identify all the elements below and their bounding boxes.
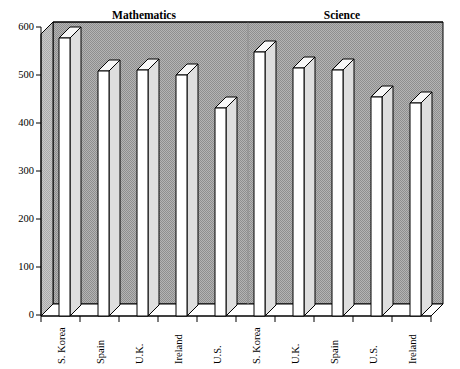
bar-science-s-korea [254,41,276,316]
x-label-science-uk: U.K. [290,344,301,364]
bar-science-uk [293,57,315,316]
bar-math-spain [98,60,120,316]
y-axis [36,27,41,316]
x-label-science-us: U.S. [368,345,379,364]
y-tick-label-0: 0 [0,310,34,320]
x-label-math-uk: U.K. [134,344,145,364]
y-tick-label-300: 300 [0,166,34,176]
bar-math-uk [137,59,159,316]
x-label-science-ireland: Ireland [407,334,418,364]
bar-math-us [215,97,237,316]
x-label-science-spain: Spain [329,340,340,364]
plot-left-wall [41,22,53,316]
x-label-science-s-korea: S. Korea [251,327,262,364]
y-tick-label-400: 400 [0,118,34,128]
y-tick-label-200: 200 [0,214,34,224]
bar-math-s-korea [59,27,81,316]
bar-science-ireland [410,92,432,316]
bar-math-ireland [176,64,198,316]
x-label-math-s-korea: S. Korea [56,327,67,364]
y-tick-label-100: 100 [0,262,34,272]
bar-science-spain [332,59,354,316]
y-tick-label-600: 600 [0,22,34,32]
x-axis [41,316,431,322]
x-label-math-ireland: Ireland [173,334,184,364]
chart-canvas [0,0,460,369]
group-title-mathematics: Mathematics [84,9,204,21]
bar-chart: 600 500 400 300 200 100 0 Mathematics Sc… [0,0,460,369]
x-label-math-spain: Spain [95,340,106,364]
group-title-science: Science [297,9,387,21]
bar-science-us [371,86,393,316]
x-label-math-us: U.S. [212,345,223,364]
y-tick-label-500: 500 [0,70,34,80]
